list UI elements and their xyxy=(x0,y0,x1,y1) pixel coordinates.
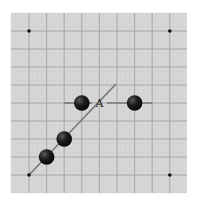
star-point-icon xyxy=(168,29,172,33)
black-stone-icon xyxy=(56,131,72,147)
black-stone-icon xyxy=(74,95,90,111)
go-board: A xyxy=(0,0,198,203)
star-point-icon xyxy=(168,173,172,177)
go-board-diagram: A xyxy=(0,0,198,203)
board-labels: A xyxy=(94,97,104,110)
star-point-icon xyxy=(27,173,31,177)
star-point-icon xyxy=(27,29,31,33)
black-stone-icon xyxy=(39,149,55,165)
black-stone-icon xyxy=(127,95,143,111)
point-label: A xyxy=(94,97,104,110)
